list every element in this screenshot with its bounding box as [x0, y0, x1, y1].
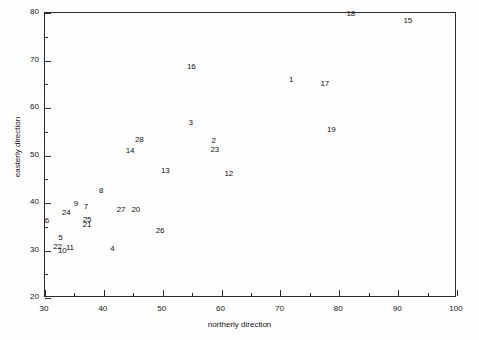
data-point-label: 22	[53, 243, 62, 251]
y-axis-minor-tick	[45, 274, 48, 275]
x-axis-tick	[222, 290, 223, 296]
x-axis-minor-tick	[428, 293, 429, 296]
y-axis-tick	[45, 251, 51, 252]
data-point-label: 14	[126, 147, 135, 155]
data-point-label: 19	[327, 126, 336, 134]
plot-area	[44, 12, 456, 297]
data-point-label: 11	[66, 244, 74, 252]
x-axis-tick	[457, 290, 458, 296]
x-axis-tick	[280, 290, 281, 296]
x-axis-tick	[339, 290, 340, 296]
y-axis-minor-tick	[45, 37, 48, 38]
y-axis-tick	[45, 156, 51, 157]
x-axis-minor-tick	[74, 293, 75, 296]
data-point-label: 2	[211, 137, 215, 145]
data-point-label: 18	[346, 10, 355, 18]
x-axis-tick-label: 100	[449, 305, 462, 313]
x-axis-tick	[104, 290, 105, 296]
y-axis-tick	[45, 203, 51, 204]
data-point-label: 15	[403, 17, 412, 25]
x-axis-tick-label: 60	[216, 305, 225, 313]
x-axis-minor-tick	[369, 293, 370, 296]
y-axis-tick	[45, 61, 51, 62]
y-axis-minor-tick	[45, 132, 48, 133]
data-point-label: 12	[225, 170, 234, 178]
data-point-label: 4	[110, 245, 114, 253]
x-axis-tick-label: 30	[40, 305, 49, 313]
y-axis-tick-label: 20	[19, 293, 39, 301]
data-point-label: 16	[187, 63, 196, 71]
data-point-label: 5	[58, 234, 62, 242]
data-point-label: 8	[99, 187, 103, 195]
y-axis-tick-label: 40	[19, 198, 39, 206]
x-axis-tick-label: 70	[275, 305, 284, 313]
x-axis-tick-label: 90	[393, 305, 402, 313]
data-point-label: 26	[156, 227, 165, 235]
data-point-label: 25	[83, 216, 92, 224]
y-axis-tick-label: 80	[19, 8, 39, 16]
data-point-label: 20	[132, 206, 141, 214]
data-point-label: 23	[210, 146, 219, 154]
y-axis-tick-label: 60	[19, 103, 39, 111]
y-axis-minor-tick	[45, 227, 48, 228]
y-axis-tick	[45, 298, 51, 299]
data-point-label: 24	[62, 209, 71, 217]
data-point-label: 1	[289, 76, 293, 84]
y-axis-tick-label: 30	[19, 246, 39, 254]
data-point-label: 13	[161, 167, 170, 175]
data-point-label: 17	[320, 80, 329, 88]
scatter-plot-figure: 3040506070809010020304050607080 12345678…	[0, 0, 479, 340]
x-axis-tick-label: 80	[334, 305, 343, 313]
x-axis-minor-tick	[251, 293, 252, 296]
x-axis-tick-label: 50	[157, 305, 166, 313]
y-axis-tick-label: 70	[19, 56, 39, 64]
y-axis-minor-tick	[45, 179, 48, 180]
y-axis-minor-tick	[45, 84, 48, 85]
data-point-label: 7	[84, 203, 88, 211]
x-axis-label: northerly direction	[0, 321, 479, 329]
y-axis-label: easterly direction	[14, 87, 22, 207]
x-axis-tick-label: 40	[98, 305, 107, 313]
x-axis-minor-tick	[192, 293, 193, 296]
y-axis-tick	[45, 13, 51, 14]
x-axis-tick	[45, 290, 46, 296]
data-point-label: 6	[45, 217, 49, 225]
x-axis-minor-tick	[310, 293, 311, 296]
y-axis-tick	[45, 108, 51, 109]
data-point-label: 9	[74, 200, 78, 208]
x-axis-minor-tick	[133, 293, 134, 296]
data-point-label: 3	[188, 119, 192, 127]
x-axis-tick	[163, 290, 164, 296]
x-axis-tick	[398, 290, 399, 296]
y-axis-tick-label: 50	[19, 151, 39, 159]
data-point-label: 27	[117, 206, 126, 214]
data-point-label: 28	[135, 136, 144, 144]
